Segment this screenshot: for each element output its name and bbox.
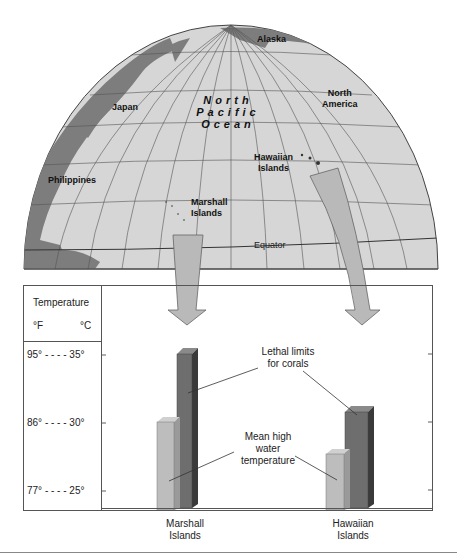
- tick-dash: - - - -: [45, 349, 67, 360]
- label-alaska: Alaska: [257, 34, 286, 45]
- bottom-rule: [0, 552, 457, 553]
- label-philippines: Philippines: [48, 175, 96, 186]
- annotation-mean-line1: Mean high: [228, 431, 308, 443]
- label-ocean-line3: Ocean: [188, 118, 268, 130]
- category-hawaiian-line1: Hawaiian: [318, 518, 388, 530]
- category-marshall-islands: Marshall Islands: [150, 518, 220, 542]
- category-marshall-line2: Islands: [150, 530, 220, 542]
- tick-f: 95°: [27, 349, 42, 360]
- tick-77f-25c: 77° - - - - 25°: [27, 485, 84, 496]
- tick-c: 35°: [69, 349, 84, 360]
- tick-f: 77°: [27, 485, 42, 496]
- tick-c: 25°: [69, 485, 84, 496]
- label-japan: Japan: [112, 102, 138, 113]
- label-north-america: North America: [322, 88, 358, 110]
- label-hawaiian-line1: Hawaiian: [254, 152, 293, 163]
- y-axis-title: Temperature: [33, 297, 89, 308]
- annotation-lethal-line2: for corals: [248, 358, 328, 370]
- tick-c: 30°: [69, 417, 84, 428]
- label-ocean-line2: Pacific: [188, 106, 268, 118]
- unit-fahrenheit: °F: [33, 320, 43, 331]
- label-hawaiian-islands: Hawaiian Islands: [254, 152, 293, 174]
- globe-map: [24, 25, 438, 269]
- tick-95f-35c: 95° - - - - 35°: [27, 349, 84, 360]
- y-axis-header-divider: [23, 341, 102, 342]
- annotation-mean-line2: water: [228, 443, 308, 455]
- annotation-mean-line3: temperature: [228, 455, 308, 467]
- label-ocean-line1: North: [188, 94, 268, 106]
- annotation-mean-high-water: Mean high water temperature: [228, 431, 308, 467]
- label-north-america-line2: America: [322, 99, 358, 110]
- y-axis-panel: [23, 285, 102, 511]
- label-marshall-line2: Islands: [191, 208, 228, 219]
- label-marshall-line1: Marshall: [191, 197, 228, 208]
- label-north-america-line1: North: [322, 88, 358, 99]
- unit-celsius: °C: [80, 320, 91, 331]
- tick-86f-30c: 86° - - - - 30°: [27, 417, 84, 428]
- label-north-pacific-ocean: North Pacific Ocean: [188, 94, 268, 130]
- label-hawaiian-line2: Islands: [254, 163, 293, 174]
- category-hawaiian-line2: Islands: [318, 530, 388, 542]
- tick-dash: - - - -: [45, 417, 67, 428]
- tick-dash: - - - -: [45, 485, 67, 496]
- annotation-lethal-line1: Lethal limits: [248, 346, 328, 358]
- label-marshall-islands: Marshall Islands: [191, 197, 228, 219]
- category-hawaiian-islands: Hawaiian Islands: [318, 518, 388, 542]
- annotation-lethal-limits: Lethal limits for corals: [248, 346, 328, 370]
- tick-f: 86°: [27, 417, 42, 428]
- label-equator: Equator: [254, 240, 286, 250]
- category-marshall-line1: Marshall: [150, 518, 220, 530]
- baseline: [102, 508, 433, 509]
